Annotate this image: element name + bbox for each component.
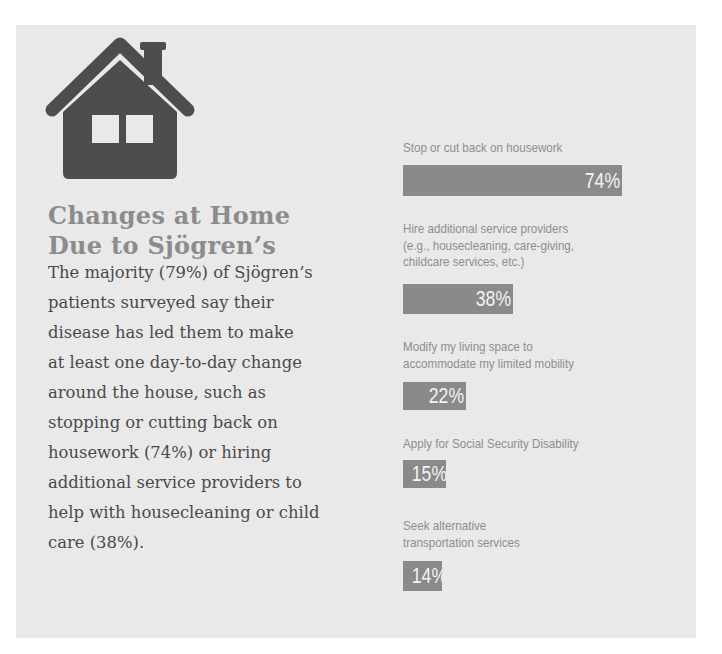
bar-14: 14% (403, 561, 442, 591)
bar-chart: Stop or cut back on housework 74% Hire a… (403, 0, 683, 654)
title-line-2: Due to Sjögren’s (48, 231, 368, 261)
body-paragraph: The majority (79%) of Sjögren’s patients… (48, 258, 388, 558)
chart-item: Stop or cut back on housework (403, 140, 683, 157)
house-icon (44, 30, 199, 180)
bar-value: 15% (412, 460, 446, 488)
chart-item: Apply for Social Security Disability (403, 436, 683, 453)
bar-label: Seek alternative transportation services (403, 518, 661, 551)
chart-item: Seek alternative transportation services (403, 518, 683, 551)
bar-label: Apply for Social Security Disability (403, 436, 661, 453)
body-line: help with housecleaning or child (48, 498, 388, 528)
body-line: stopping or cutting back on (48, 408, 388, 438)
chart-item: Hire additional service providers (e.g.,… (403, 221, 683, 271)
body-line: care (38%). (48, 528, 388, 558)
body-line: housework (74%) or hiring (48, 438, 388, 468)
body-line: at least one day-to-day change (48, 348, 388, 378)
body-line: additional service providers to (48, 468, 388, 498)
bar-value: 38% (476, 284, 511, 314)
bar-value: 22% (429, 382, 464, 410)
bar-74: 74% (403, 165, 622, 196)
page-title: Changes at Home Due to Sjögren’s (48, 201, 368, 261)
body-line: The majority (79%) of Sjögren’s (48, 258, 388, 288)
chart-item: Modify my living space to accommodate my… (403, 339, 683, 372)
bar-label: Hire additional service providers (e.g.,… (403, 221, 661, 271)
title-line-1: Changes at Home (48, 201, 368, 231)
bar-label: Modify my living space to accommodate my… (403, 339, 661, 372)
body-line: around the house, such as (48, 378, 388, 408)
body-line: disease has led them to make (48, 318, 388, 348)
bar-38: 38% (403, 284, 513, 314)
bar-value: 14% (412, 561, 442, 591)
body-line: patients surveyed say their (48, 288, 388, 318)
bar-label: Stop or cut back on housework (403, 140, 661, 157)
bar-value: 74% (585, 165, 620, 196)
bar-22: 22% (403, 382, 466, 410)
bar-15: 15% (403, 460, 446, 488)
